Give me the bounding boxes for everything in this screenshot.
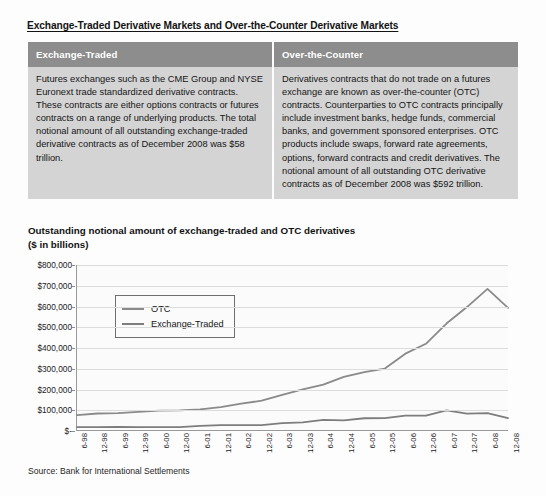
x-axis-tick-label: 6-08: [491, 433, 500, 449]
y-axis-tick-label: $300,000: [37, 364, 72, 374]
y-axis-tick-label: $400,000: [37, 343, 72, 353]
y-axis-tick-mark: [72, 307, 75, 308]
table-header-row: Exchange-Traded Over-the-Counter: [28, 42, 518, 67]
gridline: [77, 390, 508, 391]
y-axis: $-$100,000$200,000$300,000$400,000$500,0…: [28, 265, 72, 431]
page-title: Exchange-Traded Derivative Markets and O…: [27, 20, 398, 31]
table-row: Futures exchanges such as the CME Group …: [28, 67, 518, 199]
gridline: [77, 265, 508, 266]
legend-label-otc: OTC: [151, 304, 170, 314]
x-axis-tick-label: 6-01: [203, 433, 212, 449]
column-header-exchange-traded: Exchange-Traded: [28, 42, 273, 67]
y-axis-tick-label: $600,000: [37, 302, 72, 312]
gridline: [77, 307, 508, 308]
y-axis-tick-label: $100,000: [37, 405, 72, 415]
series-line-exchange-traded: [77, 410, 508, 427]
x-axis-tick-label: 6-03: [285, 433, 294, 449]
y-axis-tick-label: $700,000: [37, 281, 72, 291]
x-axis-tick-label: 6-00: [162, 433, 171, 449]
x-axis-tick-label: 12-98: [100, 433, 109, 453]
gridline: [77, 286, 508, 287]
line-chart: $-$100,000$200,000$300,000$400,000$500,0…: [28, 258, 518, 463]
exchange-traded-paragraph: Futures exchanges such as the CME Group …: [36, 73, 263, 165]
x-axis-tick-label: 6-05: [368, 433, 377, 449]
chart-title: Outstanding notional amount of exchange-…: [28, 224, 355, 251]
x-axis-tick-label: 6-07: [450, 433, 459, 449]
y-axis-tick-mark: [72, 327, 75, 328]
legend-color-swatch-exchange-traded: [122, 323, 144, 325]
gridline: [77, 410, 508, 411]
legend-item-exchange-traded: Exchange-Traded: [122, 316, 228, 331]
x-axis-tick-label: 6-04: [326, 433, 335, 449]
legend-item-otc: OTC: [122, 301, 228, 316]
x-axis-tick-label: 6-06: [409, 433, 418, 449]
x-axis-tick-label: 12-07: [470, 433, 479, 453]
y-axis-tick-label: $800,000: [37, 260, 72, 270]
y-axis-tick-label: $500,000: [37, 322, 72, 332]
x-axis-tick-label: 12-05: [388, 433, 397, 453]
x-axis: 6-9812-986-9912-996-0012-006-0112-016-02…: [76, 431, 508, 463]
x-axis-tick-label: 12-06: [429, 433, 438, 453]
y-axis-tick-mark: [72, 390, 75, 391]
y-axis-tick-label: $200,000: [37, 385, 72, 395]
chart-legend: OTC Exchange-Traded: [115, 295, 235, 338]
x-axis-tick-label: 12-02: [265, 433, 274, 453]
x-axis-tick-label: 6-99: [121, 433, 130, 449]
comparison-table: Exchange-Traded Over-the-Counter Futures…: [28, 42, 518, 199]
x-axis-tick-label: 12-03: [306, 433, 315, 453]
gridline: [77, 327, 508, 328]
gridline: [77, 348, 508, 349]
plot-area: OTC Exchange-Traded: [76, 265, 508, 431]
over-the-counter-paragraph: Derivatives contracts that do not trade …: [282, 73, 509, 191]
source-note: Source: Bank for International Settlemen…: [28, 466, 189, 476]
y-axis-tick-label: $-: [65, 426, 72, 436]
x-axis-tick-label: 6-02: [244, 433, 253, 449]
x-axis-tick-label: 12-04: [347, 433, 356, 453]
y-axis-tick-mark: [72, 286, 75, 287]
y-axis-tick-mark: [72, 369, 75, 370]
x-axis-tick-label: 12-01: [224, 433, 233, 453]
document-page: Exchange-Traded Derivative Markets and O…: [0, 0, 546, 496]
legend-color-swatch-otc: [122, 308, 144, 310]
x-axis-tick-label: 6-98: [80, 433, 89, 449]
x-axis-tick-label: 12-08: [512, 433, 521, 453]
column-header-over-the-counter: Over-the-Counter: [273, 42, 518, 67]
y-axis-tick-mark: [72, 348, 75, 349]
x-axis-tick-label: 12-00: [182, 433, 191, 453]
y-axis-tick-mark: [72, 265, 75, 266]
y-axis-tick-mark: [72, 410, 75, 411]
cell-over-the-counter-description: Derivatives contracts that do not trade …: [273, 67, 518, 199]
gridline: [77, 369, 508, 370]
x-axis-tick-label: 12-99: [141, 433, 150, 453]
y-axis-tick-mark: [72, 431, 75, 432]
cell-exchange-traded-description: Futures exchanges such as the CME Group …: [28, 67, 273, 199]
